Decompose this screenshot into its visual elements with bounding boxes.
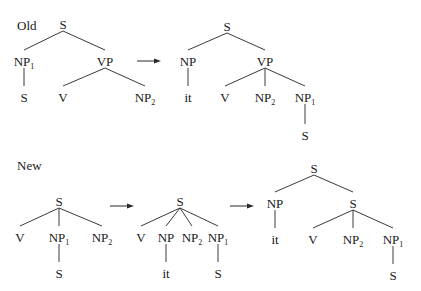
tree-node-v: V bbox=[220, 90, 230, 105]
tree-node-np2: NP2 bbox=[255, 90, 276, 107]
arrow-new-1 bbox=[110, 204, 134, 209]
tree-node-np: NP bbox=[158, 230, 175, 245]
tree-node-np2: NP2 bbox=[135, 90, 156, 107]
tree-node-np1: NP1 bbox=[208, 230, 229, 247]
tree-edge-s-sb bbox=[314, 175, 353, 192]
tree-edge-sb-v bbox=[313, 210, 353, 228]
tree-node-s: S bbox=[176, 194, 183, 209]
new-result-tree: SNPSitVNP2NP1S bbox=[267, 161, 404, 283]
tree-node-s: S bbox=[55, 194, 62, 209]
tree-node-s: S bbox=[310, 161, 317, 176]
tree-edge-vp-np1 bbox=[265, 68, 305, 86]
tree-node-vp: VP bbox=[97, 54, 114, 69]
tree-node-s2: S bbox=[301, 128, 308, 143]
tree-edge-s-np bbox=[275, 175, 314, 192]
tree-edge-s-vp bbox=[227, 33, 265, 50]
tree-edge-s-np bbox=[188, 33, 227, 50]
tree-node-s: S bbox=[223, 19, 230, 34]
tree-node-np1: NP1 bbox=[49, 230, 70, 247]
tree-edge-vp-np2 bbox=[105, 68, 145, 86]
tree-node-s2: S bbox=[214, 266, 221, 281]
section-label-old: Old bbox=[17, 18, 37, 33]
tree-node-np1: NP1 bbox=[14, 54, 35, 71]
tree-node-np2: NP2 bbox=[343, 232, 364, 249]
tree-edge-vp-v bbox=[63, 68, 105, 86]
tree-node-np1: NP1 bbox=[295, 90, 316, 107]
syntax-tree-diagram: Old New SNP1VPSVNP2SNPVPitVNP2NP1SSVNP1N… bbox=[0, 0, 421, 291]
tree-node-s2: S bbox=[55, 266, 62, 281]
tree-node-np: NP bbox=[267, 196, 284, 211]
tree-edge-s-np2 bbox=[59, 208, 102, 226]
tree-node-vp: VP bbox=[257, 54, 274, 69]
section-label-new: New bbox=[17, 158, 42, 173]
tree-edge-s-v bbox=[141, 208, 180, 226]
tree-node-s2: S bbox=[389, 268, 396, 283]
arrow-old bbox=[137, 59, 161, 64]
tree-node-v: V bbox=[136, 230, 146, 245]
tree-edge-s-np1 bbox=[24, 31, 63, 50]
tree-edge-sb-np1 bbox=[353, 210, 393, 228]
arrow-new-2 bbox=[230, 204, 254, 209]
tree-node-s2: S bbox=[20, 90, 27, 105]
tree-node-it: it bbox=[184, 90, 192, 105]
tree-edge-s-vp bbox=[63, 31, 105, 50]
tree-node-np2: NP2 bbox=[182, 230, 203, 247]
tree-edge-vp-v bbox=[225, 68, 265, 86]
tree-node-it: it bbox=[162, 266, 170, 281]
new-intermediate-tree: SVNPNP2NP1itS bbox=[136, 194, 228, 281]
tree-node-np2: NP2 bbox=[92, 230, 113, 247]
tree-node-v: V bbox=[58, 90, 68, 105]
tree-node-v: V bbox=[15, 230, 25, 245]
tree-node-v: V bbox=[308, 232, 318, 247]
tree-node-sb: S bbox=[349, 196, 356, 211]
tree-node-s: S bbox=[59, 17, 66, 32]
tree-node-np: NP bbox=[180, 54, 197, 69]
tree-edge-s-v bbox=[20, 208, 59, 226]
old-result-tree: SNPVPitVNP2NP1S bbox=[180, 19, 316, 143]
tree-node-np1: NP1 bbox=[383, 232, 404, 249]
tree-node-it: it bbox=[271, 232, 279, 247]
new-source-tree: SVNP1NP2S bbox=[15, 194, 112, 281]
